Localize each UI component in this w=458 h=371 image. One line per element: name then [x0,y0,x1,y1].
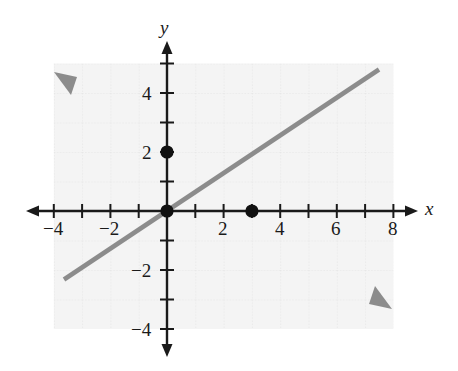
y-tick-label--4: −4 [131,320,151,339]
x-tick-label-2: 2 [218,219,228,238]
x-tick-label--2: −2 [99,219,119,238]
grid-region [54,64,394,330]
x-tick-label-8: 8 [388,219,398,238]
coordinate-plane [0,0,458,371]
y-axis-label: y [160,18,168,37]
x-axis-label: x [425,199,433,218]
graph-figure: −4 −2 2 4 6 8 4 2 −2 −4 y x [0,0,458,371]
point-origin [160,204,173,217]
y-tick-label-2: 2 [142,143,152,162]
y-tick-label-4: 4 [142,84,152,103]
x-tick-label--4: −4 [43,219,63,238]
x-tick-label-6: 6 [331,219,341,238]
y-tick-label--2: −2 [131,261,151,280]
point-x-intercept [245,204,258,217]
point-y-intercept [160,145,173,158]
x-tick-label-4: 4 [275,219,285,238]
